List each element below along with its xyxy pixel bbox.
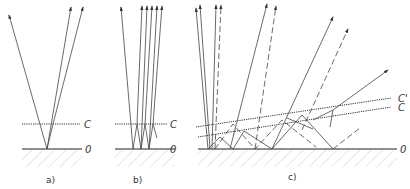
panel-b: C 0 b) [115, 6, 177, 185]
caption-c: c) [288, 172, 296, 182]
reflection-diagram: C 0 a) C 0 b) [0, 0, 410, 189]
panel-c: C' C 0 c) [196, 4, 408, 182]
label-c: C [398, 102, 405, 113]
panel-a: C 0 a) [9, 7, 91, 185]
label-surface: 0 [85, 144, 91, 155]
label-surface: 0 [400, 144, 406, 155]
label-surface: 0 [170, 144, 176, 155]
caption-a: a) [46, 175, 55, 185]
caption-b: b) [133, 175, 142, 185]
label-c: C [170, 119, 177, 130]
label-c: C [84, 119, 91, 130]
